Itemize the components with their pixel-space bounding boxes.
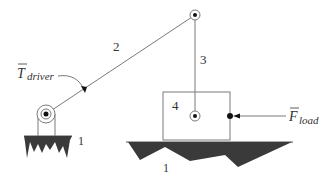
crank-coupler-pin-icon: [190, 10, 200, 20]
ground-label-right: 1: [163, 161, 169, 175]
load-force-arrow: [227, 113, 286, 119]
slider-label: 4: [172, 98, 179, 113]
slider-pin-icon: [190, 111, 200, 121]
load-force-label: F load: [288, 108, 319, 126]
mechanism-diagram: 1 2 3 4 1 F load: [0, 0, 333, 178]
svg-text:load: load: [299, 114, 319, 126]
ground-label-left: 1: [78, 134, 84, 148]
crank-label: 2: [113, 39, 120, 54]
svg-text:T: T: [17, 66, 26, 81]
ground-left: [24, 136, 72, 158]
driver-torque-arrow: [58, 76, 87, 93]
svg-text:driver: driver: [27, 70, 55, 82]
ground-right: [126, 142, 293, 167]
ground-pivot-icon: [37, 105, 55, 123]
driver-torque-label: T driver: [17, 64, 55, 82]
svg-text:F: F: [288, 109, 298, 124]
coupler-label: 3: [200, 52, 207, 67]
